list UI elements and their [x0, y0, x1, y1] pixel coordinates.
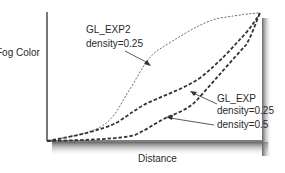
label-gl-exp2: GL_EXP2 — [86, 24, 131, 35]
fog-mode-diagram: Fog Color Distance GL_EXP2 density=0.25 … — [0, 0, 285, 173]
y-axis-label: Fog Color — [0, 47, 41, 58]
label-gl-exp2-density: density=0.25 — [86, 38, 143, 49]
x-axis-label: Distance — [138, 153, 177, 164]
label-gl-exp-density-025: density=0.25 — [217, 105, 274, 116]
plot-shadow-right — [262, 18, 272, 156]
label-gl-exp-density-05: density=0.5 — [217, 119, 269, 130]
label-gl-exp: GL_EXP — [217, 93, 256, 104]
